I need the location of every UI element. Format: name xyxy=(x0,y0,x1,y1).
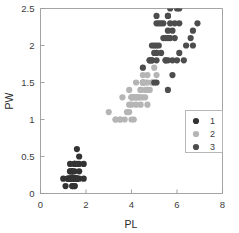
data-point xyxy=(149,42,155,48)
data-point xyxy=(69,168,75,174)
y-tick-label: 0 xyxy=(29,188,34,199)
series-1 xyxy=(60,146,87,189)
data-point xyxy=(126,87,132,93)
series-points-group xyxy=(60,5,200,189)
data-point xyxy=(183,42,189,48)
data-point xyxy=(140,65,146,71)
data-point xyxy=(133,79,139,85)
data-point xyxy=(124,109,130,115)
x-axis-title: PL xyxy=(125,218,138,230)
data-point xyxy=(144,79,150,85)
data-point xyxy=(122,116,128,122)
data-point xyxy=(160,20,166,26)
data-point xyxy=(176,5,182,11)
x-tick-marks xyxy=(41,190,223,194)
data-point xyxy=(153,57,159,63)
x-tick-label: 4 xyxy=(129,199,134,210)
data-point xyxy=(81,161,87,167)
data-point xyxy=(190,42,196,48)
data-point xyxy=(153,72,159,78)
legend-label-2: 2 xyxy=(210,129,215,139)
x-tick-label: 2 xyxy=(83,199,88,210)
series-2 xyxy=(106,57,160,122)
data-point xyxy=(74,146,80,152)
plot-canvas: 02468 00.511.522.5 PL PW 123 xyxy=(0,0,239,233)
data-point xyxy=(112,116,118,122)
data-point xyxy=(147,57,153,63)
data-point xyxy=(106,109,112,115)
data-point xyxy=(165,87,171,93)
data-point xyxy=(131,94,137,100)
data-point xyxy=(194,20,200,26)
data-point xyxy=(62,183,68,189)
data-point xyxy=(131,116,137,122)
data-point xyxy=(153,79,159,85)
data-point xyxy=(165,13,171,19)
y-tick-label: 1 xyxy=(29,114,34,125)
data-point xyxy=(81,176,87,182)
legend-marker-1 xyxy=(193,118,199,124)
data-point xyxy=(160,35,166,41)
data-point xyxy=(176,50,182,56)
data-point xyxy=(119,94,125,100)
data-point xyxy=(151,50,157,56)
data-point xyxy=(72,161,78,167)
data-point xyxy=(163,57,169,63)
data-point xyxy=(69,176,75,182)
y-tick-label: 0.5 xyxy=(21,151,34,162)
legend-marker-3 xyxy=(193,144,199,150)
data-point xyxy=(174,57,180,63)
data-point xyxy=(151,65,157,71)
data-point xyxy=(188,35,194,41)
data-point xyxy=(181,57,187,63)
y-axis-title: PW xyxy=(3,92,15,109)
y-tick-labels: 00.511.522.5 xyxy=(21,3,34,199)
data-point xyxy=(167,5,173,11)
y-tick-label: 2 xyxy=(29,40,34,51)
data-point xyxy=(69,183,75,189)
data-point xyxy=(140,72,146,78)
data-point xyxy=(156,42,162,48)
data-point xyxy=(153,13,159,19)
x-tick-label: 8 xyxy=(220,199,225,210)
data-point xyxy=(172,20,178,26)
legend-label-3: 3 xyxy=(210,142,215,152)
legend-marker-2 xyxy=(193,131,199,137)
y-tick-label: 2.5 xyxy=(21,3,34,14)
data-point xyxy=(133,102,139,108)
x-tick-labels: 02468 xyxy=(38,199,225,210)
y-tick-label: 1.5 xyxy=(21,77,34,88)
y-tick-marks xyxy=(41,9,45,194)
data-point xyxy=(169,72,175,78)
data-point xyxy=(190,28,196,34)
scatter-plot-figure: 02468 00.511.522.5 PL PW 123 xyxy=(0,0,239,233)
x-tick-label: 6 xyxy=(174,199,179,210)
data-point xyxy=(76,153,82,159)
legend[interactable]: 123 xyxy=(186,111,223,153)
x-tick-label: 0 xyxy=(38,199,43,210)
data-point xyxy=(142,87,148,93)
data-point xyxy=(144,102,150,108)
legend-label-1: 1 xyxy=(210,116,215,126)
legend-box xyxy=(186,111,223,153)
data-point xyxy=(165,28,171,34)
